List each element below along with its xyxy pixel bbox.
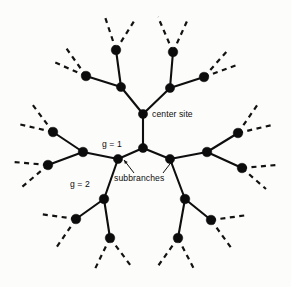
label-generation-2: g = 2	[70, 180, 90, 189]
label-subbranches: subbranches	[114, 174, 164, 183]
dashed-stub	[242, 165, 276, 168]
tree-node	[237, 163, 247, 173]
tree-edge	[104, 199, 110, 238]
dashed-stub	[94, 238, 110, 271]
tree-edge	[83, 152, 118, 159]
tree-node	[111, 45, 121, 55]
tree-edge	[178, 199, 185, 238]
dashed-stub	[54, 62, 86, 76]
tree-edge	[53, 132, 83, 152]
tree-node	[78, 147, 88, 157]
tree-node	[165, 83, 174, 92]
tree-node	[165, 154, 174, 163]
annotation-arrow-layer	[124, 160, 173, 173]
dashed-stub-layer	[14, 14, 276, 271]
dashed-stub	[40, 214, 76, 219]
tree-edge	[86, 76, 121, 87]
dashed-stub	[158, 17, 173, 52]
dashed-stub	[116, 18, 136, 50]
cayley-tree-figure: center site g = 1 g = 2 subbranches	[0, 0, 291, 287]
tree-node	[206, 215, 216, 225]
dashed-stub	[32, 104, 53, 132]
tree-node	[233, 128, 243, 138]
tree-edge	[170, 77, 204, 88]
dashed-stub	[211, 220, 232, 249]
tree-node	[113, 154, 122, 163]
tree-node	[180, 194, 190, 204]
node-layer	[43, 45, 247, 243]
tree-node	[99, 194, 109, 204]
tree-edge	[170, 152, 207, 159]
tree-node	[116, 82, 125, 91]
tree-edge	[121, 87, 143, 114]
tree-edge	[76, 199, 104, 219]
tree-node	[43, 160, 53, 170]
tree-node	[81, 71, 91, 81]
dashed-stub	[158, 238, 178, 266]
tree-node	[138, 143, 147, 152]
dashed-stub	[56, 219, 76, 248]
tree-edge	[207, 152, 242, 168]
tree-edge	[170, 159, 185, 199]
dashed-stub	[211, 215, 248, 220]
dashed-stub	[238, 125, 272, 133]
tree-edge	[207, 133, 238, 152]
tree-edge	[170, 52, 173, 88]
tree-node	[105, 233, 115, 243]
dashed-stub	[14, 162, 48, 165]
label-center-site: center site	[152, 110, 193, 119]
tree-node	[199, 72, 209, 82]
dashed-stub	[22, 165, 48, 187]
dashed-stub	[18, 124, 53, 132]
tree-edge	[116, 50, 121, 87]
label-generation-1: g = 1	[102, 140, 122, 149]
tree-edge	[48, 152, 83, 165]
dashed-stub	[204, 65, 237, 77]
dashed-stub	[110, 238, 131, 266]
tree-node	[173, 233, 183, 243]
tree-node	[71, 214, 81, 224]
dashed-stub	[238, 104, 258, 133]
tree-node	[168, 47, 178, 57]
tree-node	[138, 109, 147, 118]
dashed-stub	[178, 238, 195, 271]
tree-node	[202, 147, 212, 157]
tree-graphic	[0, 0, 291, 287]
dashed-stub	[104, 14, 116, 50]
dashed-stub	[173, 19, 188, 52]
tree-node	[48, 127, 58, 137]
